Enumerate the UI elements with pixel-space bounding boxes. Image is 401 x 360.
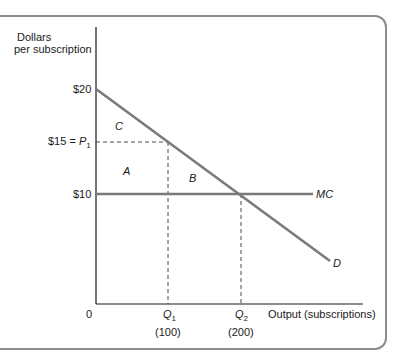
region-label-b: B [189, 172, 196, 185]
region-label-a: A [123, 165, 130, 178]
tick-label-20: $20 [73, 83, 91, 96]
tick-label-10: $10 [73, 188, 91, 201]
mc-curve-label: MC [316, 188, 333, 201]
tick-label-q1: Q1 [163, 308, 176, 325]
tick-value-q1: (100) [155, 326, 181, 339]
tick-value-q2: (200) [228, 326, 254, 339]
tick-label-q2: Q2 [235, 308, 248, 325]
y-axis-title-line2: per subscription [14, 43, 92, 56]
tick-label-15-p1: $15 = P1 [48, 135, 91, 152]
origin-label: 0 [86, 308, 92, 321]
demand-line [96, 89, 330, 261]
demand-curve-label: D [333, 257, 341, 270]
x-axis-title: Output (subscriptions) [268, 308, 376, 321]
region-label-c: C [115, 120, 123, 133]
